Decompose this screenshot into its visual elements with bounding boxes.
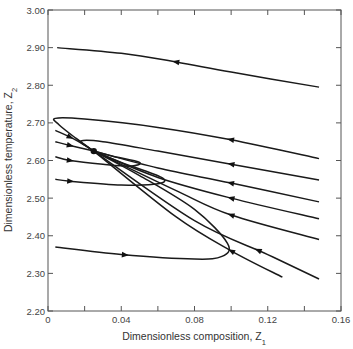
x-axis-ticks: 00.040.080.120.16 [45,10,350,325]
x-tick-label: 0 [45,314,50,325]
trajectory-bottom [55,151,229,259]
x-axis-label: Dimensionless composition, Z1 [122,330,266,347]
y-tick-label: 2.30 [27,268,46,279]
direction-arrow-icon [67,178,74,184]
phase-portrait-chart: 00.040.080.120.16 2.202.302.402.502.602.… [0,0,353,349]
y-axis-label: Dimensionless temperature, Z2 [2,88,19,232]
x-tick-label: 0.08 [185,314,204,325]
y-tick-label: 3.00 [27,5,46,16]
y-tick-label: 2.50 [27,193,46,204]
trajectory-curves [54,48,319,279]
x-tick-label: 0.04 [112,314,131,325]
y-tick-label: 2.80 [27,80,46,91]
x-tick-label: 0.12 [259,314,278,325]
direction-arrow-icon [122,252,129,258]
y-tick-label: 2.90 [27,42,46,53]
plot-area-border [48,10,341,311]
y-tick-label: 2.70 [27,117,46,128]
direction-arrows [66,58,262,258]
direction-arrow-icon [254,246,263,254]
saddle-point-marker [91,148,97,154]
y-tick-label: 2.20 [27,306,46,317]
plot-frame [48,10,341,311]
y-tick-label: 2.40 [27,230,46,241]
x-tick-label: 0.16 [332,314,351,325]
y-tick-label: 2.60 [27,155,46,166]
direction-arrow-icon [227,211,235,219]
trajectory-top [57,48,319,88]
